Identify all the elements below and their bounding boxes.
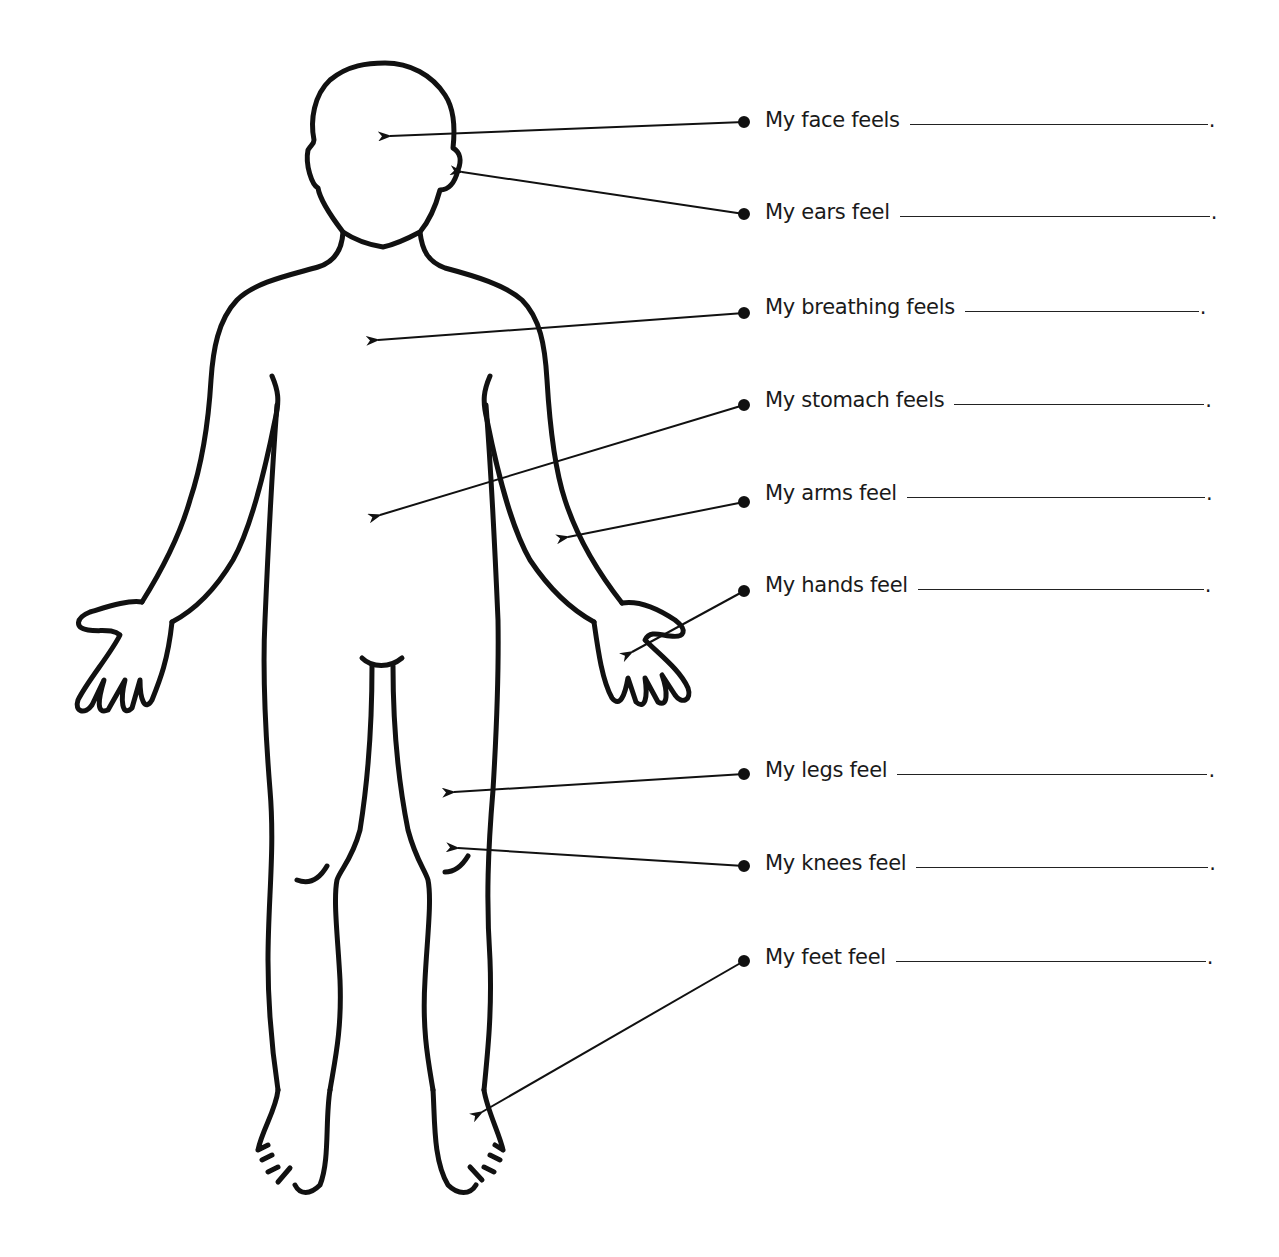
answer-blank-ears[interactable] xyxy=(900,216,1210,217)
leader-face xyxy=(390,122,744,136)
answer-blank-breathing[interactable] xyxy=(965,311,1199,312)
label-feet: My feet feel . xyxy=(765,945,1213,969)
body-side-left xyxy=(264,405,278,1090)
body-outline-figure xyxy=(0,0,1279,1257)
label-text: My stomach feels xyxy=(765,388,944,412)
dot-feet xyxy=(739,956,749,966)
hand-right xyxy=(594,602,689,704)
answer-blank-hands[interactable] xyxy=(918,589,1204,590)
label-ears: My ears feel . xyxy=(765,200,1217,224)
inner-arm-right xyxy=(484,376,594,622)
answer-blank-face[interactable] xyxy=(910,124,1208,125)
dot-knees xyxy=(739,861,749,871)
answer-blank-stomach[interactable] xyxy=(954,404,1204,405)
label-text: My hands feel xyxy=(765,573,908,597)
label-knees: My knees feel . xyxy=(765,851,1216,875)
label-face: My face feels . xyxy=(765,108,1215,132)
knee-left xyxy=(297,866,327,882)
leader-legs xyxy=(454,774,744,792)
label-text: My feet feel xyxy=(765,945,886,969)
inner-leg-left xyxy=(330,666,372,1090)
label-text: My ears feel xyxy=(765,200,890,224)
label-legs: My legs feel . xyxy=(765,758,1215,782)
dot-hands xyxy=(739,586,749,596)
dot-arms xyxy=(739,497,749,507)
label-text: My breathing feels xyxy=(765,295,955,319)
inner-leg-right xyxy=(393,666,433,1090)
head-outline xyxy=(307,63,460,247)
label-hands: My hands feel . xyxy=(765,573,1211,597)
label-text: My arms feel xyxy=(765,481,897,505)
knee-right xyxy=(445,856,468,872)
answer-blank-arms[interactable] xyxy=(907,497,1205,498)
leader-arms xyxy=(568,502,744,537)
leader-lines xyxy=(378,117,749,1112)
label-breathing: My breathing feels . xyxy=(765,295,1206,319)
leader-hands xyxy=(632,591,744,652)
dot-ears xyxy=(739,209,749,219)
foot-left xyxy=(258,1090,330,1193)
torso-left xyxy=(142,232,343,602)
dot-stomach xyxy=(739,400,749,410)
hand-left xyxy=(77,602,172,711)
crotch xyxy=(362,658,402,666)
label-text: My face feels xyxy=(765,108,900,132)
leader-knees xyxy=(458,848,744,866)
answer-blank-knees[interactable] xyxy=(916,867,1208,868)
label-arms: My arms feel . xyxy=(765,481,1212,505)
dot-face xyxy=(739,117,749,127)
leader-feet xyxy=(482,961,744,1112)
answer-blank-feet[interactable] xyxy=(896,961,1206,962)
body-side-right xyxy=(484,405,498,1090)
dot-legs xyxy=(739,769,749,779)
leader-ears xyxy=(462,172,744,214)
label-stomach: My stomach feels . xyxy=(765,388,1212,412)
leader-breathing xyxy=(378,313,744,340)
answer-blank-legs[interactable] xyxy=(897,774,1207,775)
dot-breathing xyxy=(739,308,749,318)
label-text: My legs feel xyxy=(765,758,887,782)
label-text: My knees feel xyxy=(765,851,906,875)
